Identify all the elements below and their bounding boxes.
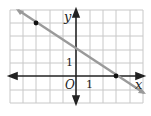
- point-b: [114, 74, 119, 79]
- coordinate-graph: y x O 1 1: [0, 0, 151, 116]
- graph-canvas: [0, 0, 151, 116]
- point-a: [34, 21, 39, 26]
- y-tick-label: 1: [66, 57, 73, 68]
- y-axis-label: y: [64, 10, 71, 23]
- x-tick-label: 1: [86, 79, 93, 90]
- x-axis-label: x: [135, 78, 142, 91]
- origin-label: O: [65, 79, 75, 91]
